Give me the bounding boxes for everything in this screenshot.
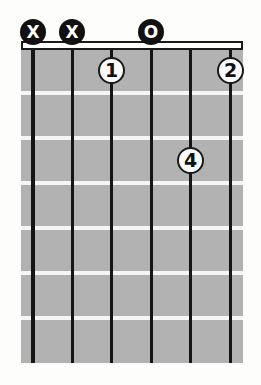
fret-line-1 <box>21 91 243 95</box>
string-line-1 <box>31 48 35 363</box>
finger-marker-1-string-3-fret-1: 1 <box>98 57 125 84</box>
fretboard <box>21 48 243 363</box>
string-line-3 <box>110 48 113 363</box>
nut <box>21 41 243 50</box>
fret-line-6 <box>21 316 243 320</box>
finger-marker-2-string-6-fret-1: 2 <box>217 57 244 84</box>
fret-line-2 <box>21 136 243 140</box>
string-line-6 <box>229 48 232 363</box>
finger-marker-4-string-5-fret-3: 4 <box>177 147 204 174</box>
muted-marker-string-1: X <box>20 19 46 45</box>
fret-line-5 <box>21 271 243 275</box>
fret-line-3 <box>21 181 243 185</box>
string-line-4 <box>150 48 153 363</box>
muted-marker-string-2: X <box>59 19 85 45</box>
open-marker-string-4: O <box>138 19 164 45</box>
string-line-2 <box>71 48 74 363</box>
fret-line-4 <box>21 226 243 230</box>
string-line-5 <box>189 48 192 363</box>
guitar-chord-diagram: XXO124 <box>0 0 261 385</box>
